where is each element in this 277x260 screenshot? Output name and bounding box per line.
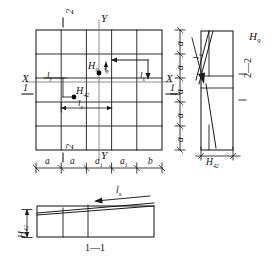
dim-bottom-seg-2: a1 <box>95 157 103 169</box>
dim-right-seg-1: a <box>176 65 188 70</box>
axis-y-label-top: Y <box>101 13 107 24</box>
section-1-1-arrow <box>94 196 150 204</box>
dim-lx-lower-label: lx <box>78 99 83 110</box>
section-mark-2-bottom: 2 <box>65 144 75 149</box>
dim-bottom-seg-0: a <box>45 157 50 169</box>
section-mark-2-top: 2 <box>65 9 75 14</box>
section-1-1-height-label: H42 <box>18 225 30 238</box>
section-2-2-inner <box>201 31 233 150</box>
section-2-2-slope <box>196 31 216 148</box>
section-1-1-slope <box>37 203 154 215</box>
section-2-2-caption: 2—2 <box>243 58 253 78</box>
dim-bottom-seg-1: a <box>70 157 75 169</box>
dim-bottom-seg-4: b <box>148 157 153 169</box>
plan-point-upper-label: H9 <box>88 61 98 73</box>
dim-right-seg-4: a <box>176 137 188 142</box>
section-1-1-caption: 1—1 <box>85 243 105 253</box>
section-2-2-outline <box>201 31 233 150</box>
section-2-2-arrow <box>192 38 205 84</box>
technical-drawing: X X Y Y 1 1 2 2 H9 H42 lx ly ly lx a a a… <box>0 0 277 260</box>
dim-ly-point-label: ly <box>104 63 109 74</box>
dim-right-seg-3: a <box>176 113 188 118</box>
section-2-2-height-label: H9 <box>249 31 260 45</box>
dim-right-seg-0: a <box>176 41 188 46</box>
dim-bottom-seg-3: a1 <box>120 157 128 169</box>
plan-point-lower-label: H42 <box>76 86 89 98</box>
arrow-lx-right-label: lx <box>140 71 145 82</box>
section-mark-1-left: 1 <box>23 83 28 93</box>
section-2-2-slope-label: ly <box>192 54 203 59</box>
section-1-1-slope-label: lx <box>116 186 121 198</box>
dim-ly-left-label: ly <box>47 71 52 82</box>
dim-right-seg-2: a <box>176 89 188 94</box>
drawing-canvas <box>0 0 277 260</box>
section-2-2-base-dim-label: H42 <box>206 158 219 170</box>
